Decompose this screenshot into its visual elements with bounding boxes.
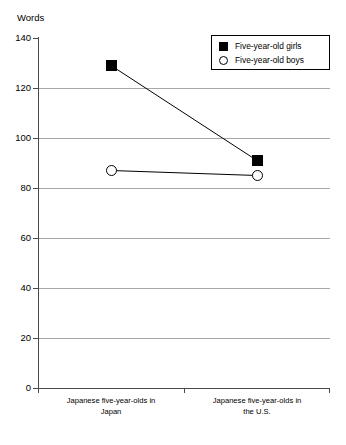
x-category-label-1: Japanese five-year-olds in the U.S.	[184, 396, 330, 417]
x-category-label-0: Japanese five-year-olds in Japan	[38, 396, 184, 417]
y-tick-60: 60	[0, 233, 31, 243]
y-axis-title: Words	[17, 12, 44, 24]
x-category-label-0-line-1: Japan	[38, 407, 184, 418]
y-tick-20: 20	[0, 333, 31, 343]
y-tick-80: 80	[0, 183, 31, 193]
legend-item-girls: Five-year-old girls	[219, 39, 302, 53]
y-tick-label-140: 140	[3, 33, 31, 43]
y-tick-100: 100	[0, 133, 31, 143]
legend: Five-year-old girls Five-year-old boys	[211, 35, 330, 70]
y-tick-mark-60	[33, 238, 38, 239]
x-tick-mark-middle	[184, 388, 185, 393]
y-tick-120: 120	[0, 83, 31, 93]
y-tick-label-100: 100	[3, 133, 31, 143]
y-tick-mark-140	[33, 38, 38, 39]
open-circle-icon	[219, 56, 228, 65]
y-tick-mark-100	[33, 138, 38, 139]
y-tick-label-40: 40	[3, 283, 31, 293]
y-tick-mark-120	[33, 88, 38, 89]
data-point-girls-japan	[106, 60, 117, 71]
y-tick-label-0: 0	[3, 383, 31, 393]
gridline-20	[38, 338, 330, 339]
x-category-label-0-line-0: Japanese five-year-olds in	[38, 396, 184, 407]
y-tick-mark-40	[33, 288, 38, 289]
data-point-boys-us	[252, 170, 263, 181]
legend-label-boys: Five-year-old boys	[235, 55, 304, 65]
data-point-girls-us	[252, 155, 263, 166]
filled-square-icon	[219, 42, 228, 51]
gridline-120	[38, 88, 330, 89]
gridline-100	[38, 138, 330, 139]
y-tick-label-120: 120	[3, 83, 31, 93]
gridline-80	[38, 188, 330, 189]
y-tick-mark-20	[33, 338, 38, 339]
y-tick-140: 140	[0, 33, 31, 43]
y-tick-label-80: 80	[3, 183, 31, 193]
x-tick-mark-left	[38, 388, 39, 393]
y-tick-40: 40	[0, 283, 31, 293]
y-tick-mark-80	[33, 188, 38, 189]
x-tick-mark-right	[329, 388, 330, 393]
gridline-60	[38, 238, 330, 239]
plot-area	[38, 38, 330, 388]
legend-item-boys: Five-year-old boys	[219, 53, 304, 67]
x-category-label-1-line-0: Japanese five-year-olds in	[184, 396, 330, 407]
line-chart: Words 140 120 100 80 60 40 20 0	[0, 0, 346, 445]
data-point-boys-japan	[106, 165, 117, 176]
gridline-40	[38, 288, 330, 289]
y-axis-line	[38, 37, 39, 389]
x-category-label-1-line-1: the U.S.	[184, 407, 330, 418]
legend-label-girls: Five-year-old girls	[235, 41, 302, 51]
y-tick-label-20: 20	[3, 333, 31, 343]
y-tick-label-60: 60	[3, 233, 31, 243]
y-tick-0: 0	[0, 383, 31, 393]
